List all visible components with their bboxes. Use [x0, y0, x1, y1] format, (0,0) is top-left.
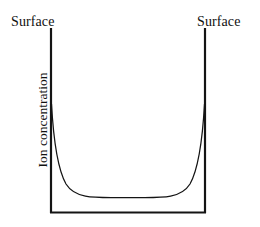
- surface-label-right: Surface: [197, 14, 240, 29]
- ion-concentration-curve: [52, 104, 205, 198]
- ion-concentration-figure: Surface Surface Ion concentration: [0, 0, 260, 227]
- y-axis-label: Ion concentration: [36, 60, 50, 180]
- surface-label-left: Surface: [11, 14, 54, 29]
